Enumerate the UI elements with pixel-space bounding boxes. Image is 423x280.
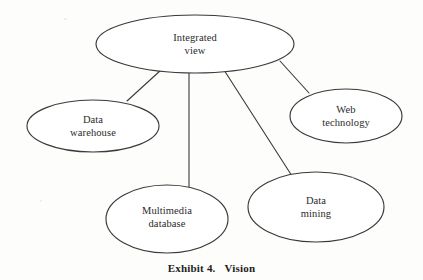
figure-caption-title: Vision <box>225 262 256 274</box>
edge-integrated-view-to-web-technology <box>280 61 309 93</box>
node-multimedia-database[interactable] <box>106 185 228 253</box>
figure-caption: Exhibit 4.Vision <box>0 262 423 274</box>
node-layer <box>27 15 402 253</box>
node-integrated-view[interactable] <box>96 15 294 73</box>
node-data-mining[interactable] <box>248 172 384 242</box>
edge-integrated-view-to-data-warehouse <box>127 70 161 101</box>
edge-integrated-view-to-data-mining <box>224 70 292 176</box>
scan-speck <box>64 18 67 20</box>
diagram-canvas <box>0 0 423 280</box>
scan-speck <box>40 200 42 202</box>
node-data-warehouse[interactable] <box>27 100 159 152</box>
node-web-technology[interactable] <box>290 89 402 143</box>
exhibit-figure: Integrated view Data warehouse Web techn… <box>0 0 423 280</box>
figure-caption-label: Exhibit 4. <box>168 262 216 274</box>
scan-speck <box>352 176 354 178</box>
